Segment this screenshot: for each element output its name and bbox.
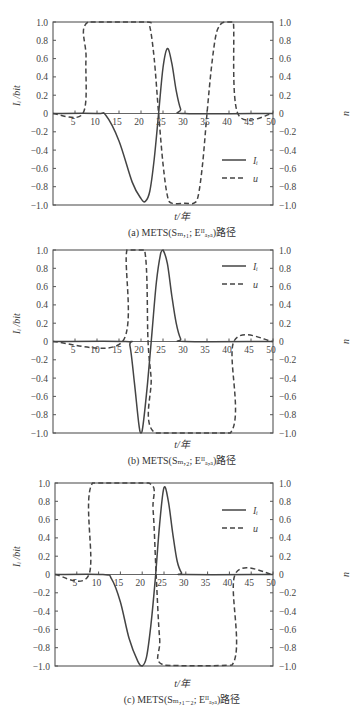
y-tick-label-right: −0.8 bbox=[279, 182, 296, 192]
legend-label: Iᵢ bbox=[252, 505, 258, 516]
x-tick-label: 45 bbox=[244, 578, 254, 588]
y-tick-label-left: 0 bbox=[43, 109, 48, 119]
y-tick-label-right: 0 bbox=[279, 337, 284, 347]
y-tick-label-left: 0.6 bbox=[36, 282, 48, 292]
x-tick-label: 25 bbox=[156, 345, 166, 355]
y-tick-label-right: 0.6 bbox=[279, 282, 291, 292]
legend-label: Iᵢ bbox=[252, 155, 258, 166]
y-tick-label-left: 0.6 bbox=[38, 515, 50, 525]
x-axis-label: t/年 bbox=[0, 675, 364, 690]
x-tick-label: 50 bbox=[266, 578, 276, 588]
y-tick-label-left: −0.6 bbox=[31, 392, 48, 402]
y-tick-label-left: −0.8 bbox=[31, 182, 48, 192]
y-tick-label-right: 0.2 bbox=[279, 552, 291, 562]
y-tick-label-right: −0.4 bbox=[279, 146, 296, 156]
legend-label: u bbox=[253, 173, 258, 184]
x-tick-label: 35 bbox=[201, 578, 211, 588]
y-tick-label-right: 0.8 bbox=[279, 264, 291, 274]
chart-a-plot: 1.01.00.80.80.60.60.40.40.20.200−0.2−0.2… bbox=[11, 18, 353, 211]
chart-c-plot: 1.01.00.80.80.60.60.40.40.20.200−0.2−0.2… bbox=[11, 479, 353, 672]
y-tick-label-right: −0.6 bbox=[279, 625, 296, 635]
y-tick-label-left: 0 bbox=[43, 337, 48, 347]
x-tick-label: 20 bbox=[134, 345, 144, 355]
x-tick-label: 25 bbox=[157, 578, 167, 588]
x-tick-label: 10 bbox=[90, 117, 100, 127]
x-tick-label: 10 bbox=[92, 578, 102, 588]
y-tick-label-left: 0.6 bbox=[36, 54, 48, 64]
y-axis-label-right: u bbox=[342, 572, 353, 577]
y-tick-label-right: 0.2 bbox=[279, 91, 291, 101]
y-tick-label-right: −0.4 bbox=[279, 607, 296, 617]
y-tick-label-left: −0.2 bbox=[33, 588, 50, 598]
y-tick-label-left: 0.4 bbox=[36, 72, 48, 82]
x-tick-label: 15 bbox=[112, 117, 122, 127]
y-axis-label-left: Iᵢ /bit bbox=[11, 85, 22, 107]
y-axis-label-right: u bbox=[342, 111, 353, 116]
legend-label: u bbox=[253, 279, 258, 290]
x-tick-label: 5 bbox=[72, 578, 77, 588]
x-tick-label: 30 bbox=[178, 117, 188, 127]
y-tick-label-right: −0.2 bbox=[279, 588, 296, 598]
y-tick-label-right: 0.2 bbox=[279, 319, 291, 329]
y-tick-label-left: −0.4 bbox=[33, 607, 50, 617]
y-tick-label-right: −0.6 bbox=[279, 392, 296, 402]
y-tick-label-right: 0.6 bbox=[279, 54, 291, 64]
y-tick-label-left: 1.0 bbox=[36, 18, 48, 28]
y-tick-label-right: −0.2 bbox=[279, 127, 296, 137]
x-tick-label: 40 bbox=[223, 578, 233, 588]
y-tick-label-right: 0.6 bbox=[279, 515, 291, 525]
x-tick-label: 45 bbox=[244, 117, 254, 127]
x-tick-label: 45 bbox=[244, 345, 254, 355]
chart-b-plot: 1.01.00.80.80.60.60.40.40.20.200−0.2−0.2… bbox=[11, 246, 353, 439]
y-tick-label-left: −0.6 bbox=[31, 164, 48, 174]
y-tick-label-left: 0 bbox=[45, 570, 50, 580]
x-tick-label: 20 bbox=[134, 117, 144, 127]
legend-label: u bbox=[253, 523, 258, 534]
x-axis-label: t/年 bbox=[0, 436, 364, 451]
y-tick-label-right: −0.6 bbox=[279, 164, 296, 174]
y-tick-label-left: −0.8 bbox=[33, 643, 50, 653]
y-tick-label-right: 0 bbox=[279, 109, 284, 119]
y-tick-label-left: 1.0 bbox=[38, 479, 50, 489]
y-tick-label-left: −0.8 bbox=[31, 410, 48, 420]
x-tick-label: 30 bbox=[179, 578, 189, 588]
chart-b-svg: 1.01.00.80.80.60.60.40.40.20.200−0.2−0.2… bbox=[0, 236, 364, 451]
chart-panel-a: 1.01.00.80.80.60.60.40.40.20.200−0.2−0.2… bbox=[0, 0, 364, 240]
x-tick-label: 50 bbox=[266, 345, 276, 355]
y-tick-label-right: −0.8 bbox=[279, 410, 296, 420]
x-tick-label: 50 bbox=[266, 117, 276, 127]
y-tick-label-left: −0.4 bbox=[31, 374, 48, 384]
y-tick-label-right: 0 bbox=[279, 570, 284, 580]
y-tick-label-right: 0.8 bbox=[279, 497, 291, 507]
chart-a-svg: 1.01.00.80.80.60.60.40.40.20.200−0.2−0.2… bbox=[0, 0, 364, 215]
x-tick-label: 40 bbox=[222, 117, 232, 127]
y-tick-label-right: 1.0 bbox=[279, 246, 291, 256]
y-tick-label-right: 0.4 bbox=[279, 533, 291, 543]
x-tick-label: 35 bbox=[200, 117, 210, 127]
x-tick-label: 20 bbox=[135, 578, 145, 588]
y-tick-label-right: 1.0 bbox=[279, 479, 291, 489]
y-axis-label-left: Iᵢ /bit bbox=[11, 546, 22, 568]
chart-panel-c: 1.01.00.80.80.60.60.40.40.20.200−0.2−0.2… bbox=[0, 470, 364, 709]
y-tick-label-left: 0.8 bbox=[36, 36, 48, 46]
chart-panel-b: 1.01.00.80.80.60.60.40.40.20.200−0.2−0.2… bbox=[0, 236, 364, 476]
y-axis-label-right: u bbox=[342, 339, 353, 344]
y-tick-label-left: 1.0 bbox=[36, 246, 48, 256]
y-tick-label-left: 0.2 bbox=[36, 91, 48, 101]
y-tick-label-right: 0.4 bbox=[279, 300, 291, 310]
y-tick-label-left: −0.2 bbox=[31, 355, 48, 365]
chart-caption: (c) METS(Sₘ,₁₋₂; Eᴵᴵₐ,ₐ)路径 bbox=[0, 691, 364, 706]
y-tick-label-right: −0.8 bbox=[279, 643, 296, 653]
x-axis-label: t/年 bbox=[0, 208, 364, 223]
y-tick-label-right: 0.4 bbox=[279, 72, 291, 82]
y-tick-label-left: −0.4 bbox=[31, 146, 48, 156]
legend-label: Iᵢ bbox=[252, 261, 258, 272]
y-tick-label-left: 0.2 bbox=[38, 552, 50, 562]
y-tick-label-right: −0.2 bbox=[279, 355, 296, 365]
y-tick-label-left: 0.8 bbox=[38, 497, 50, 507]
x-tick-label: 30 bbox=[178, 345, 188, 355]
y-tick-label-left: −0.2 bbox=[31, 127, 48, 137]
chart-caption: (b) METS(Sₘ,₂; Eᴵᴵₐ,ₐ)路径 bbox=[0, 452, 364, 467]
y-axis-label-left: Iᵢ /bit bbox=[11, 313, 22, 335]
y-tick-label-right: 0.8 bbox=[279, 36, 291, 46]
